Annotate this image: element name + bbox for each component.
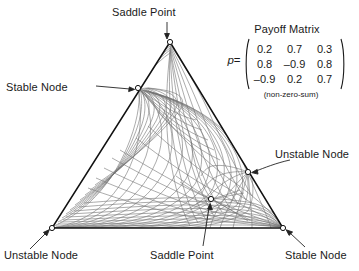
leader-arrow-stable-br [290, 233, 305, 247]
payoff-matrix-equation: p= 0.2 0.7 0.3 0.8 –0.9 0.8 –0.9 0.2 0.7 [218, 38, 356, 90]
label-unstable-node-bottom-left: Unstable Node [4, 249, 78, 261]
payoff-matrix-title: Payoff Matrix [218, 23, 356, 35]
node-marker-unstable-right [245, 169, 250, 174]
replicator-dynamics-figure: Saddle Point Stable Node Unstable Node S… [0, 0, 359, 271]
label-stable-node-bottom-right: Stable Node [285, 249, 347, 261]
label-saddle-point-bottom: Saddle Point [150, 249, 214, 261]
leader-arrow-stable-left [96, 86, 130, 89]
matrix-left-paren [243, 38, 250, 90]
matrix-cell-r1c1: –0.9 [284, 58, 305, 70]
payoff-matrix-block: Payoff Matrix p= 0.2 0.7 0.3 0.8 –0.9 0.… [218, 23, 356, 99]
matrix-cell-r2c2: 0.7 [317, 73, 332, 85]
matrix-right-paren [340, 38, 347, 90]
matrix-cell-r0c1: 0.7 [287, 43, 302, 55]
payoff-matrix-equals: = [234, 54, 241, 66]
matrix-cell-r0c0: 0.2 [257, 43, 272, 55]
label-stable-node-left: Stable Node [6, 81, 68, 93]
node-marker-stable-left [135, 85, 140, 90]
node-marker-saddle-interior [208, 196, 213, 201]
matrix-cell-r1c2: 0.8 [317, 58, 332, 70]
leader-arrow-unstable-bl [30, 233, 46, 249]
payoff-matrix-grid: 0.2 0.7 0.3 0.8 –0.9 0.8 –0.9 0.2 0.7 [250, 41, 340, 88]
matrix-cell-r2c0: –0.9 [254, 73, 275, 85]
node-marker-stable-br [280, 225, 285, 230]
payoff-matrix-symbol: p= [227, 54, 240, 75]
payoff-matrix-note: (non-zero-sum) [218, 90, 356, 99]
node-marker-unstable-bl [49, 225, 54, 230]
matrix-cell-r0c2: 0.3 [317, 43, 332, 55]
leader-arrow-saddle-bottom [203, 208, 209, 246]
leader-arrow-unstable-right [256, 160, 290, 171]
matrix-cell-r1c0: 0.8 [257, 58, 272, 70]
label-unstable-node-right: Unstable Node [275, 148, 349, 160]
node-marker-saddle-top [167, 39, 172, 44]
label-saddle-point-top: Saddle Point [112, 6, 176, 18]
matrix-cell-r2c1: 0.2 [287, 73, 302, 85]
